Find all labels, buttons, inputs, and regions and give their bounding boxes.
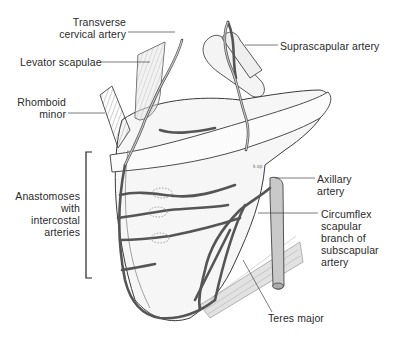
label-line: artery [321, 256, 379, 268]
label-circumflex-scapular: Circumflex scapular branch of subscapula… [321, 208, 379, 268]
label-axillary-artery: Axillary artery [317, 173, 352, 197]
label-line: scapular [321, 220, 379, 232]
label-line: branch of [321, 232, 379, 244]
artist-signature: k.sp [253, 163, 262, 169]
label-anastomoses: Anastomoses with intercostal arteries [10, 190, 80, 238]
label-line: Circumflex [321, 208, 379, 220]
label-line: Anastomoses [10, 190, 80, 202]
label-suprascapular-artery: Suprascapular artery [280, 40, 379, 52]
label-line: cervical artery [58, 28, 126, 40]
anastomoses-bracket [86, 152, 92, 278]
label-line: Axillary [317, 173, 352, 185]
label-rhomboid-minor: Rhomboid minor [10, 96, 66, 120]
label-line: arteries [10, 226, 80, 238]
label-line: intercostal [10, 214, 80, 226]
label-text: Teres major [268, 312, 324, 324]
label-levator-scapulae: Levator scapulae [20, 56, 102, 68]
label-text: Suprascapular artery [280, 40, 379, 52]
label-line: with [10, 202, 80, 214]
label-line: Rhomboid [10, 96, 66, 108]
label-line: Transverse [58, 16, 126, 28]
label-line: minor [10, 108, 66, 120]
label-text: Levator scapulae [20, 56, 102, 68]
label-transverse-cervical-artery: Transverse cervical artery [58, 16, 126, 40]
label-line: subscapular [321, 244, 379, 256]
label-teres-major: Teres major [268, 312, 324, 324]
label-line: artery [317, 185, 352, 197]
anatomy-figure: k.sp Transverse cervical artery Levator … [0, 0, 393, 338]
